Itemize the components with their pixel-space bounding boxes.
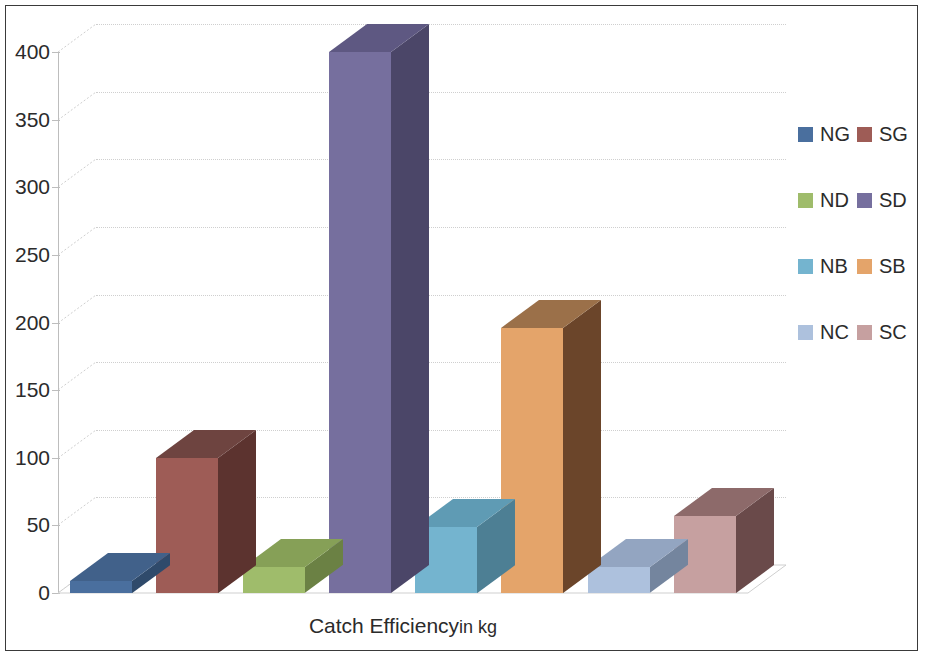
- legend-swatch-icon: [857, 259, 872, 274]
- chart-stage: 400350300250200150100500 Catch Efficienc…: [0, 0, 927, 660]
- x-axis-title-unit: in kg: [459, 617, 497, 637]
- bar-top-face: [156, 430, 218, 458]
- y-axis-tick-label: 350: [2, 109, 50, 130]
- gridline-riser: [58, 24, 96, 52]
- bar-top-face: [329, 24, 391, 52]
- chart-legend: NGSGNDSDNBSBNCSC: [798, 124, 916, 388]
- legend-item-nc[interactable]: NC: [798, 322, 857, 342]
- legend-label: SG: [879, 124, 908, 144]
- legend-swatch-icon: [798, 127, 813, 142]
- legend-item-nd[interactable]: ND: [798, 190, 857, 210]
- legend-label: NC: [820, 322, 849, 342]
- gridline-riser: [58, 92, 96, 120]
- legend-item-nb[interactable]: NB: [798, 256, 857, 276]
- gridline-riser: [58, 227, 96, 255]
- legend-item-sd[interactable]: SD: [857, 190, 916, 210]
- gridline-riser: [58, 497, 96, 525]
- legend-swatch-icon: [798, 193, 813, 208]
- legend-item-ng[interactable]: NG: [798, 124, 857, 144]
- y-axis-tick-label: 250: [2, 244, 50, 265]
- bar-top-face: [674, 488, 736, 516]
- legend-item-sb[interactable]: SB: [857, 256, 916, 276]
- y-axis-tick-label: 400: [2, 41, 50, 62]
- legend-swatch-icon: [798, 259, 813, 274]
- y-axis-line: [58, 52, 59, 593]
- bar-ng[interactable]: [70, 553, 132, 593]
- bar-side-face: [391, 24, 429, 593]
- bar-front-face: [329, 52, 391, 593]
- x-axis-title-main: Catch Efficiency: [309, 614, 459, 637]
- x-axis-title: Catch Efficiencyin kg: [58, 614, 748, 638]
- gridline: [96, 227, 786, 228]
- legend-row: NGSG: [798, 124, 916, 190]
- gridline: [96, 92, 786, 93]
- legend-swatch-icon: [857, 325, 872, 340]
- y-axis-tick-label: 0: [2, 582, 50, 603]
- legend-label: SD: [879, 190, 907, 210]
- bar-top-face: [70, 553, 132, 581]
- bar-side-face: [563, 300, 601, 593]
- legend-label: SC: [879, 322, 907, 342]
- legend-label: NB: [820, 256, 848, 276]
- gridline: [96, 24, 786, 25]
- legend-item-sg[interactable]: SG: [857, 124, 916, 144]
- legend-row: NBSB: [798, 256, 916, 322]
- gridline: [96, 362, 786, 363]
- legend-row: NCSC: [798, 322, 916, 388]
- bar-front-face: [70, 581, 132, 593]
- legend-label: SB: [879, 256, 906, 276]
- legend-swatch-icon: [857, 193, 872, 208]
- legend-label: NG: [820, 124, 850, 144]
- gridline-riser: [58, 362, 96, 390]
- gridline: [96, 159, 786, 160]
- y-axis-tick-label: 100: [2, 447, 50, 468]
- y-axis-tick-label: 150: [2, 379, 50, 400]
- gridline-riser: [58, 430, 96, 458]
- bar-top-face: [501, 300, 563, 328]
- y-axis-tick-label: 200: [2, 312, 50, 333]
- legend-swatch-icon: [798, 325, 813, 340]
- y-axis-tick-label: 50: [2, 514, 50, 535]
- legend-row: NDSD: [798, 190, 916, 256]
- bar-sd[interactable]: [329, 24, 391, 593]
- legend-swatch-icon: [857, 127, 872, 142]
- y-axis-tick-label: 300: [2, 176, 50, 197]
- gridline-riser: [58, 159, 96, 187]
- legend-label: ND: [820, 190, 849, 210]
- gridline-riser: [58, 295, 96, 323]
- gridline: [96, 295, 786, 296]
- legend-item-sc[interactable]: SC: [857, 322, 916, 342]
